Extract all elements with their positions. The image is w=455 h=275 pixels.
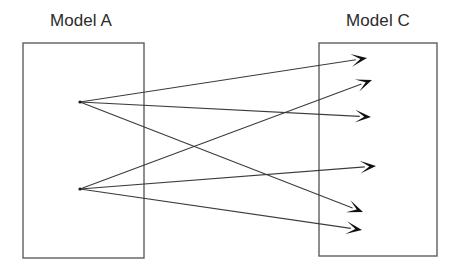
model-a-label: Model A bbox=[50, 11, 113, 30]
source-node-dot bbox=[78, 100, 81, 103]
model-c-box bbox=[319, 43, 437, 256]
connector-line bbox=[80, 189, 351, 228]
connector-line bbox=[80, 102, 353, 208]
connector-line bbox=[80, 167, 365, 189]
model-a-box bbox=[23, 43, 144, 258]
model-c-label: Model C bbox=[346, 11, 410, 30]
edges-group bbox=[80, 60, 365, 229]
connector-line bbox=[80, 60, 356, 102]
source-node-dot bbox=[78, 187, 81, 190]
connector-line bbox=[80, 102, 360, 116]
diagram-svg: Model A Model C bbox=[0, 0, 455, 275]
source-nodes-group bbox=[78, 100, 81, 190]
diagram-canvas: Model A Model C bbox=[0, 0, 455, 275]
